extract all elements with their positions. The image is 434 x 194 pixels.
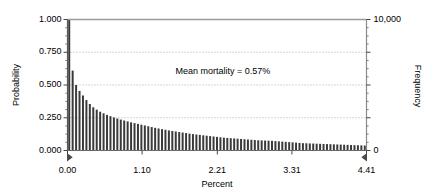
x-tick-label: 3.31 <box>283 165 301 175</box>
bar <box>116 119 118 151</box>
bar <box>364 146 366 151</box>
bar <box>72 71 74 151</box>
bar <box>147 126 149 150</box>
plot-frame <box>68 20 367 151</box>
bar <box>278 141 280 150</box>
y-tick-label-left: 0.000 <box>39 145 62 155</box>
bar <box>281 142 283 151</box>
bar <box>323 144 325 151</box>
bar <box>185 133 187 150</box>
bar <box>89 104 91 151</box>
bar <box>298 143 300 151</box>
bar <box>312 144 314 151</box>
bar <box>134 123 136 150</box>
bar <box>219 137 221 150</box>
x-tick-label: 0.00 <box>59 165 77 175</box>
bar <box>274 141 276 150</box>
bar <box>326 144 328 150</box>
y-tick-label-left: 1.000 <box>39 14 62 24</box>
x-tick-label: 4.41 <box>358 165 376 175</box>
bar <box>171 131 173 151</box>
bar <box>360 145 362 150</box>
bar <box>302 143 304 150</box>
bar <box>175 132 177 151</box>
bar <box>99 112 101 151</box>
bar <box>250 140 252 151</box>
y-tick-label-left: 0.500 <box>39 79 62 89</box>
bar <box>195 135 197 151</box>
x-axis-title: Percent <box>201 179 232 189</box>
bar <box>268 141 270 151</box>
bar <box>347 145 349 151</box>
bar <box>137 124 139 151</box>
bar <box>68 20 70 151</box>
bar <box>75 85 77 151</box>
bar <box>96 110 98 151</box>
bar <box>350 145 352 151</box>
bar <box>106 115 108 151</box>
bar <box>316 144 318 151</box>
bar <box>103 113 105 150</box>
bar <box>161 129 163 150</box>
bar <box>295 143 297 151</box>
bar <box>206 136 208 151</box>
bar <box>343 145 345 151</box>
bar <box>305 143 307 150</box>
bar <box>240 139 242 151</box>
bar <box>92 107 94 150</box>
y-tick-label-left: 0.250 <box>39 112 62 122</box>
bar <box>213 136 215 150</box>
bar <box>247 140 249 151</box>
bar <box>178 132 180 150</box>
bar <box>340 145 342 151</box>
bar <box>271 141 273 151</box>
bar <box>199 135 201 151</box>
chart-figure: 0.0000.2500.5000.7501.00010,00000.001.10… <box>0 0 434 194</box>
y-tick-label-right: 10,000 <box>374 14 402 24</box>
bar <box>216 137 218 151</box>
bar <box>336 144 338 150</box>
bar <box>353 145 355 150</box>
bar <box>189 134 191 151</box>
bar <box>333 144 335 150</box>
bar <box>264 141 266 151</box>
bar <box>309 143 311 150</box>
bar <box>79 91 81 151</box>
bar <box>233 138 235 150</box>
bar <box>85 100 87 150</box>
y-axis-title-right: Frequency <box>413 58 423 114</box>
bar <box>261 140 263 150</box>
bar <box>158 128 160 150</box>
bar <box>123 121 125 151</box>
bar <box>120 120 122 151</box>
right-range-marker[interactable] <box>361 153 367 162</box>
bar <box>109 116 111 150</box>
x-tick-label: 2.21 <box>209 165 227 175</box>
bar <box>130 122 132 150</box>
bar <box>292 142 294 150</box>
bar <box>154 128 156 151</box>
bar <box>209 136 211 150</box>
x-tick-label: 1.10 <box>133 165 151 175</box>
bar <box>144 125 146 150</box>
bar <box>329 144 331 150</box>
bar <box>182 133 184 151</box>
bar <box>254 140 256 150</box>
bar <box>244 139 246 150</box>
bar <box>140 125 142 151</box>
bar <box>226 138 228 151</box>
bar <box>127 121 129 150</box>
bar <box>113 117 115 150</box>
bar <box>223 138 225 151</box>
bar <box>192 134 194 150</box>
bar <box>285 142 287 151</box>
left-range-marker[interactable] <box>67 153 73 162</box>
y-tick-label-left: 0.750 <box>39 46 62 56</box>
bar <box>237 139 239 151</box>
bottom-axis-ticks <box>68 151 367 155</box>
bar <box>319 144 321 151</box>
y-axis-title-left: Probability <box>11 57 21 113</box>
bar <box>164 130 166 151</box>
bar <box>151 127 153 150</box>
bar <box>202 135 204 150</box>
